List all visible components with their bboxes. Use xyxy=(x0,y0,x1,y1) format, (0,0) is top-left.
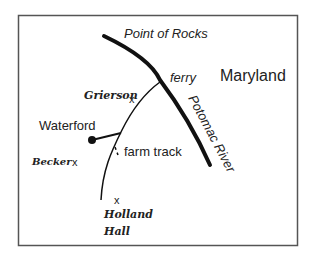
label-holland-hall-line2: Hall xyxy=(103,225,130,238)
label-holland-hall-line1: Holland xyxy=(103,208,153,221)
waterford-dot-icon xyxy=(88,136,96,144)
label-point-of-rocks: Point of Rocks xyxy=(124,26,208,41)
label-farm-track: farm track xyxy=(124,144,182,159)
label-maryland: Maryland xyxy=(220,67,286,84)
grierson-cross-icon: x xyxy=(129,93,135,105)
map-canvas: Point of Rocks ferry Maryland Potomac Ri… xyxy=(0,0,314,259)
label-becker: Becker xyxy=(31,156,72,167)
label-ferry: ferry xyxy=(170,70,198,85)
label-waterford: Waterford xyxy=(39,118,96,133)
becker-cross-icon: x xyxy=(72,156,78,168)
holland-hall-cross-icon: x xyxy=(114,194,120,206)
